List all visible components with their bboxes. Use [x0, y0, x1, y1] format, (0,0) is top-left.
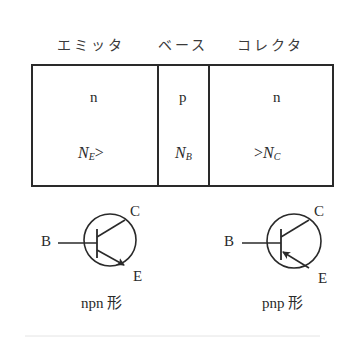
pnp-caption: pnp 形 — [262, 291, 303, 312]
npn-base-label: B — [41, 233, 51, 250]
pnp-collector-label: C — [314, 203, 324, 220]
npn-transistor-symbol — [58, 214, 136, 266]
transistor-symbols — [0, 0, 348, 337]
npn-emitter-label: E — [133, 268, 142, 285]
pnp-base-label: B — [224, 233, 234, 250]
npn-caption: npn 形 — [81, 291, 122, 312]
npn-collector-label: C — [130, 203, 140, 220]
pnp-emitter-label: E — [318, 270, 327, 287]
pnp-transistor-symbol — [242, 214, 321, 268]
